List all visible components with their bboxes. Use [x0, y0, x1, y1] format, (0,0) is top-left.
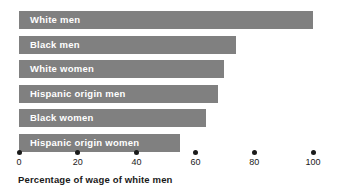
bar-row: Black men [19, 36, 236, 54]
tick-dot-icon [252, 150, 257, 155]
tick-dot-icon [134, 150, 139, 155]
bar-label: White women [30, 64, 94, 74]
tick-label: 20 [73, 158, 83, 167]
bar-row: Hispanic origin men [19, 85, 218, 103]
bar-row: White women [19, 60, 224, 78]
bar: White men [19, 11, 313, 29]
axis-title: Percentage of wage of white men [18, 175, 173, 185]
tick-label: 80 [249, 158, 259, 167]
bar-label: Hispanic origin women [30, 138, 139, 148]
tick-label: 100 [305, 158, 320, 167]
x-axis: 0 20 40 60 80 100 [0, 150, 340, 174]
bar-chart: White men Black men White women Hispanic… [0, 0, 340, 194]
bar: White women [19, 60, 224, 78]
bar: Black men [19, 36, 236, 54]
bar: Black women [19, 109, 206, 127]
tick-label: 60 [190, 158, 200, 167]
tick-dot-icon [311, 150, 316, 155]
bar: Hispanic origin men [19, 85, 218, 103]
bar-label: Black women [30, 113, 93, 123]
bar-row: Hispanic origin women [19, 134, 180, 152]
tick-label: 40 [132, 158, 142, 167]
tick-dot-icon [17, 150, 22, 155]
tick-dot-icon [193, 150, 198, 155]
bar-label: White men [30, 15, 80, 25]
bar-row: Black women [19, 109, 206, 127]
tick-dot-icon [75, 150, 80, 155]
bar-row: White men [19, 11, 313, 29]
bar-label: Hispanic origin men [30, 89, 126, 99]
bar: Hispanic origin women [19, 134, 180, 152]
plot-area: White men Black men White women Hispanic… [0, 0, 340, 150]
tick-label: 0 [16, 158, 21, 167]
bar-label: Black men [30, 40, 80, 50]
